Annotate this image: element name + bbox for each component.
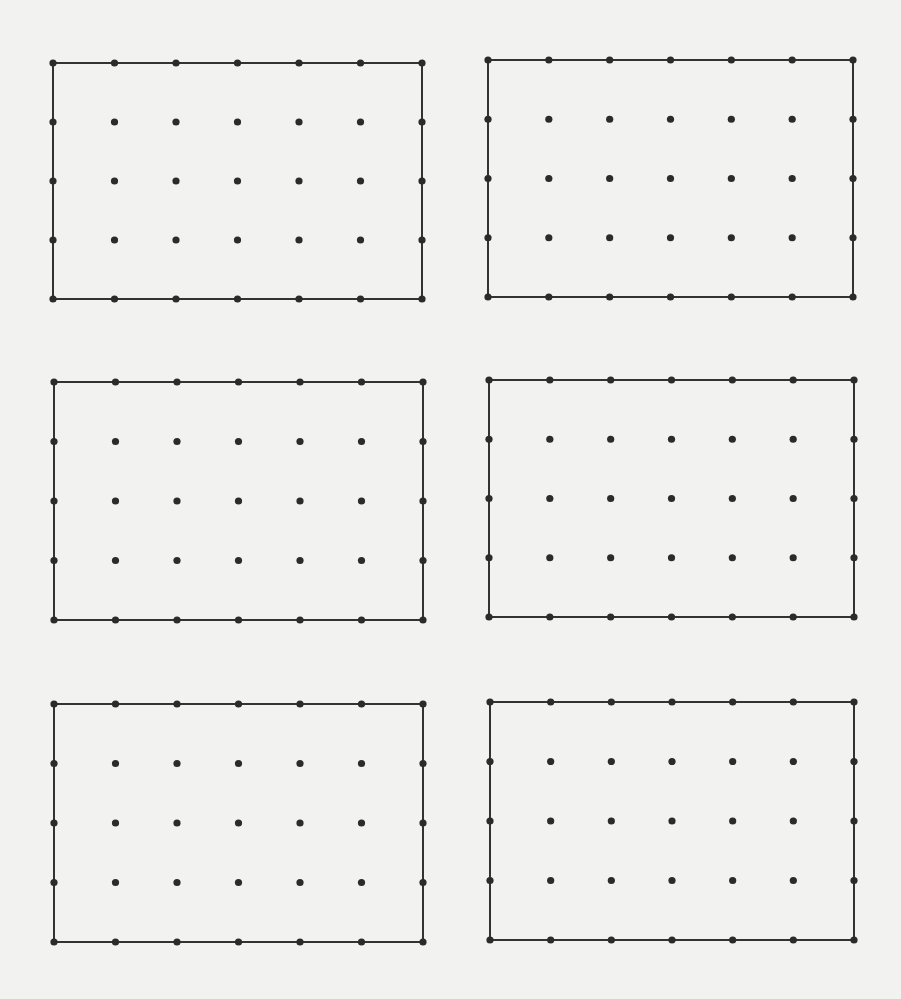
grid-dot bbox=[172, 118, 179, 125]
grid-dot bbox=[50, 497, 57, 504]
grid-dot bbox=[419, 616, 426, 623]
grid-dot bbox=[850, 495, 857, 502]
grid-dot bbox=[50, 616, 57, 623]
grid-dot bbox=[358, 497, 365, 504]
grid-dot bbox=[358, 938, 365, 945]
grid-dot bbox=[295, 236, 302, 243]
grid-dot bbox=[545, 293, 552, 300]
grid-dot bbox=[484, 56, 491, 63]
grid-dot bbox=[296, 497, 303, 504]
grid-dot bbox=[235, 497, 242, 504]
grid-dot bbox=[295, 118, 302, 125]
grid-dot bbox=[607, 436, 614, 443]
grid-dot bbox=[296, 879, 303, 886]
grid-dot bbox=[790, 613, 797, 620]
grid-dot bbox=[790, 436, 797, 443]
grid-dot bbox=[419, 557, 426, 564]
grid-dot bbox=[486, 877, 493, 884]
grid-dot bbox=[357, 59, 364, 66]
grid-dot bbox=[111, 177, 118, 184]
grid-dot bbox=[172, 236, 179, 243]
grid-dot bbox=[668, 613, 675, 620]
grid-dot bbox=[50, 938, 57, 945]
grid-dot bbox=[790, 376, 797, 383]
grid-dot bbox=[112, 938, 119, 945]
grid-dot bbox=[235, 557, 242, 564]
grid-dot bbox=[357, 118, 364, 125]
grid-dot bbox=[111, 236, 118, 243]
grid-dot bbox=[729, 376, 736, 383]
grid-dot bbox=[358, 616, 365, 623]
grid-dot bbox=[607, 554, 614, 561]
grid-dot bbox=[112, 760, 119, 767]
grid-dot bbox=[789, 56, 796, 63]
grid-dot bbox=[112, 438, 119, 445]
grid-dot bbox=[485, 613, 492, 620]
grid-dot bbox=[358, 700, 365, 707]
grid-dot bbox=[111, 59, 118, 66]
grid-dot bbox=[173, 378, 180, 385]
grid-dot bbox=[485, 554, 492, 561]
grid-dot bbox=[547, 817, 554, 824]
grid-dot bbox=[485, 495, 492, 502]
grid-dot bbox=[729, 877, 736, 884]
grid-dot bbox=[729, 698, 736, 705]
dot-grid bbox=[53, 63, 422, 299]
grid-dot bbox=[547, 698, 554, 705]
grid-dot bbox=[49, 59, 56, 66]
grid-dot bbox=[419, 378, 426, 385]
grid-dot bbox=[172, 177, 179, 184]
grid-dot bbox=[173, 557, 180, 564]
dot-grid bbox=[489, 380, 854, 617]
grid-dot bbox=[545, 175, 552, 182]
grid-dot bbox=[729, 554, 736, 561]
grid-dot bbox=[234, 236, 241, 243]
grid-dot bbox=[295, 295, 302, 302]
grid-dot bbox=[606, 234, 613, 241]
grid-dot bbox=[295, 177, 302, 184]
grid-dot bbox=[358, 438, 365, 445]
grid-dot bbox=[173, 879, 180, 886]
grid-dot bbox=[729, 613, 736, 620]
grid-dot bbox=[850, 698, 857, 705]
grid-dot bbox=[296, 557, 303, 564]
grid-dot bbox=[484, 116, 491, 123]
grid-dot bbox=[790, 554, 797, 561]
grid-dot bbox=[547, 936, 554, 943]
grid-dot bbox=[357, 236, 364, 243]
grid-dot bbox=[418, 177, 425, 184]
grid-dot bbox=[608, 877, 615, 884]
panel-top-right bbox=[488, 60, 853, 297]
grid-dot bbox=[358, 760, 365, 767]
grid-dot bbox=[485, 376, 492, 383]
grid-dot bbox=[173, 497, 180, 504]
grid-dot bbox=[850, 436, 857, 443]
grid-dot bbox=[173, 819, 180, 826]
grid-dot bbox=[173, 938, 180, 945]
grid-dot bbox=[484, 234, 491, 241]
dot-grid-worksheet bbox=[0, 0, 901, 999]
grid-dot bbox=[849, 293, 856, 300]
grid-dot bbox=[112, 819, 119, 826]
grid-dot bbox=[234, 118, 241, 125]
grid-dot bbox=[49, 118, 56, 125]
grid-dot bbox=[545, 234, 552, 241]
grid-dot bbox=[790, 698, 797, 705]
panel-middle-left bbox=[54, 382, 423, 620]
grid-dot bbox=[50, 760, 57, 767]
panel-bottom-right bbox=[490, 702, 854, 940]
grid-dot bbox=[485, 436, 492, 443]
grid-dot bbox=[668, 436, 675, 443]
grid-dot bbox=[418, 295, 425, 302]
grid-dot bbox=[667, 175, 674, 182]
grid-dot bbox=[849, 234, 856, 241]
grid-dot bbox=[419, 879, 426, 886]
grid-dot bbox=[358, 557, 365, 564]
grid-dot bbox=[419, 700, 426, 707]
grid-dot bbox=[849, 116, 856, 123]
dot-grid bbox=[488, 60, 853, 297]
grid-dot bbox=[357, 295, 364, 302]
dot-grid bbox=[54, 382, 423, 620]
grid-dot bbox=[850, 554, 857, 561]
grid-dot bbox=[112, 497, 119, 504]
